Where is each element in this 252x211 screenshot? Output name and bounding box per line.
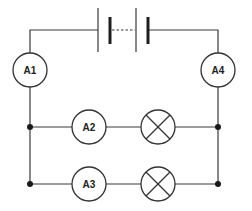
top-wire bbox=[30, 30, 218, 53]
junction-node bbox=[27, 181, 33, 187]
side-wires bbox=[30, 87, 218, 184]
lamp-icon bbox=[141, 167, 175, 201]
ammeter-a3: A3 bbox=[72, 167, 106, 201]
ammeter-a3-label: A3 bbox=[83, 179, 96, 190]
battery-icon bbox=[98, 8, 148, 52]
junction-nodes bbox=[27, 124, 221, 187]
ammeter-a4: A4 bbox=[201, 53, 235, 87]
circuit-svg: A1 A4 A2 A3 bbox=[0, 0, 252, 211]
circuit-diagram: A1 A4 A2 A3 bbox=[0, 0, 252, 211]
ammeter-a1-label: A1 bbox=[24, 65, 37, 76]
ammeter-a2-label: A2 bbox=[83, 122, 96, 133]
ammeter-a2: A2 bbox=[72, 110, 106, 144]
junction-node bbox=[215, 124, 221, 130]
ammeter-a1: A1 bbox=[13, 53, 47, 87]
ammeter-a4-label: A4 bbox=[212, 65, 225, 76]
junction-node bbox=[215, 181, 221, 187]
branch-wires bbox=[30, 127, 218, 184]
junction-node bbox=[27, 124, 33, 130]
lamp-icon bbox=[141, 110, 175, 144]
